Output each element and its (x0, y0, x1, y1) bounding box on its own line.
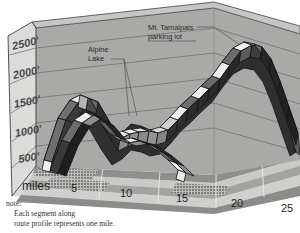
note-line-2: route profile represents one mile. (14, 219, 115, 228)
annotation-alpine-lake-line1: Alpine (88, 45, 109, 54)
x-tick-10: 10 (120, 187, 132, 199)
x-tick-5: 5 (71, 182, 77, 194)
x-tick-25: 25 (281, 202, 293, 214)
x-tick-20: 20 (231, 197, 243, 209)
annotation-mt-tamalpais-line2: parking lot (148, 32, 182, 41)
figure-container: 2500' 2000' 1500' 1000' 500' (0, 0, 300, 233)
annotation-mt-tamalpais-line1: Mt. Tamalpais (148, 23, 194, 32)
note-line-1: Each segment along (14, 209, 75, 218)
elevation-profile-figure: 2500' 2000' 1500' 1000' 500' (0, 0, 300, 233)
x-tick-15: 15 (176, 192, 188, 204)
annotation-alpine-lake-line2: Lake (88, 54, 104, 63)
x-axis-label: miles (22, 179, 50, 193)
note-heading: note: (6, 199, 21, 208)
